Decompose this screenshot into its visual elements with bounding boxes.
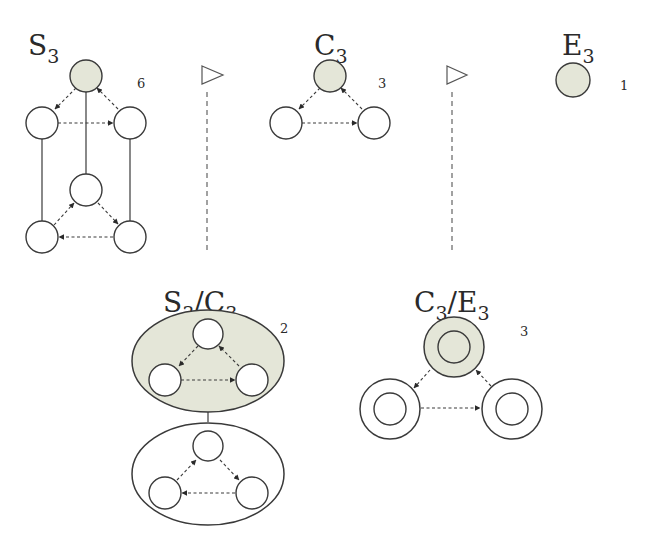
arrow — [55, 88, 76, 109]
arrow — [414, 370, 430, 388]
c3-e3-order: 3 — [520, 324, 528, 339]
arrow — [341, 88, 362, 109]
node — [358, 107, 390, 139]
arrow — [97, 88, 118, 109]
node — [374, 393, 406, 425]
normal-subgroup-separator — [202, 66, 223, 252]
s3-cayley-graph: S3 6 — [26, 29, 146, 253]
arrow — [98, 203, 118, 224]
e3-order: 1 — [620, 78, 628, 93]
node — [270, 107, 302, 139]
identity-node — [556, 63, 590, 97]
node — [26, 107, 58, 139]
normal-subgroup-triangle-icon — [447, 66, 467, 84]
normal-subgroup-separator — [447, 66, 467, 252]
arrow — [299, 88, 320, 109]
node — [70, 174, 102, 206]
node — [496, 393, 528, 425]
s3-order: 6 — [137, 76, 145, 91]
node — [193, 431, 223, 461]
node — [26, 221, 58, 253]
e3-label: E3 — [562, 29, 595, 67]
group-quotient-diagram: S3 6 C3 3 — [0, 0, 655, 550]
node — [236, 477, 268, 509]
node — [149, 477, 181, 509]
identity-node — [70, 60, 102, 92]
arrow — [54, 203, 74, 225]
s3-label: S3 — [28, 29, 59, 67]
identity-node — [314, 60, 346, 92]
node — [193, 319, 223, 349]
node — [114, 221, 146, 253]
s3-mod-c3-quotient: S3/C3 2 — [132, 286, 288, 525]
node — [236, 364, 268, 396]
c3-cayley-graph: C3 3 — [270, 29, 390, 139]
c3-mod-e3-quotient: C3/E3 3 — [360, 286, 542, 439]
arrow — [476, 370, 491, 386]
c3-order: 3 — [378, 76, 386, 91]
node — [149, 364, 181, 396]
s3-c3-order: 2 — [280, 321, 288, 336]
normal-subgroup-triangle-icon — [202, 66, 223, 84]
node — [114, 107, 146, 139]
e3-cayley-graph: E3 1 — [556, 29, 628, 97]
node — [438, 331, 470, 363]
